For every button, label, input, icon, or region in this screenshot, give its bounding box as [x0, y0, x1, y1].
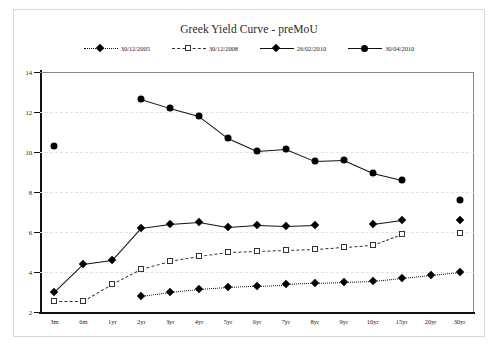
- data-point: [369, 170, 376, 177]
- data-point: [167, 105, 174, 112]
- data-point: [196, 113, 203, 120]
- data-point: [225, 135, 232, 142]
- series-30-04-2010: [0, 0, 498, 347]
- data-point: [456, 197, 463, 204]
- data-point: [311, 158, 318, 165]
- chart-figure: Greek Yield Curve - preMoU 30/12/200530/…: [0, 0, 498, 347]
- data-point: [282, 146, 289, 153]
- data-point: [398, 177, 405, 184]
- data-point: [138, 96, 145, 103]
- data-point: [254, 148, 261, 155]
- data-point: [51, 143, 58, 150]
- data-point: [340, 157, 347, 164]
